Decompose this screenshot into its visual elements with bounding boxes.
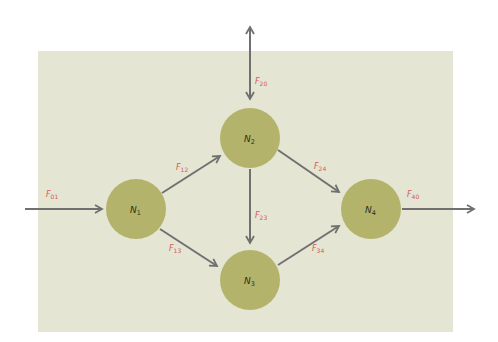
node-n1: N1: [106, 179, 166, 239]
flow-label-f01: F01: [46, 190, 58, 200]
arrow-f24: [278, 150, 339, 192]
node-n4: N4: [341, 179, 401, 239]
flow-network-diagram: N1 N2 N3 N4 F01 F12 F13 F20 F23 F24 F34 …: [0, 0, 498, 342]
arrow-f34: [278, 226, 339, 265]
flow-label-f13: F13: [169, 244, 181, 254]
node-n2: N2: [220, 108, 280, 168]
arrow-f12: [162, 156, 220, 193]
node-n3: N3: [220, 250, 280, 310]
flow-label-f40: F40: [407, 190, 419, 200]
flow-label-f24: F24: [314, 162, 326, 172]
flow-label-f34: F34: [312, 244, 324, 254]
flow-label-f20: F20: [255, 77, 267, 87]
flow-label-f12: F12: [176, 163, 188, 173]
flow-label-f23: F23: [255, 211, 267, 221]
